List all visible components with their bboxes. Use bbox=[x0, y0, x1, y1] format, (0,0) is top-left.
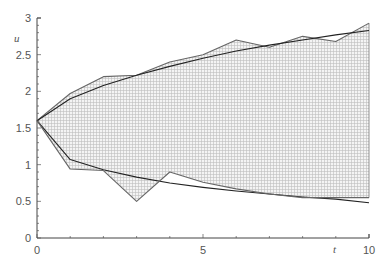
interval-envelope-chart: 00.511.522.530510 u t bbox=[0, 0, 385, 265]
y-tick-label: 1 bbox=[25, 159, 31, 171]
x-tick-label: 5 bbox=[200, 244, 206, 256]
hatched-envelope-area bbox=[37, 23, 369, 201]
y-tick-label: 0 bbox=[25, 232, 31, 244]
y-tick-label: 2 bbox=[25, 85, 31, 97]
y-tick-label: 0.5 bbox=[16, 195, 31, 207]
y-tick-label: 3 bbox=[25, 12, 31, 24]
y-tick-label: 1.5 bbox=[16, 122, 31, 134]
x-axis-label: t bbox=[333, 243, 337, 255]
x-tick-label: 0 bbox=[34, 244, 40, 256]
y-tick-label: 2.5 bbox=[16, 49, 31, 61]
y-axis-label: u bbox=[14, 32, 20, 44]
x-tick-label: 10 bbox=[363, 244, 375, 256]
